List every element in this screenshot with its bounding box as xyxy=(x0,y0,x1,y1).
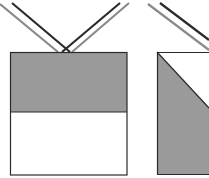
diagonal-line-left-dark xyxy=(12,3,70,52)
right-box xyxy=(157,52,209,175)
converging-lines xyxy=(0,3,129,52)
diagonal-line-right-dark xyxy=(62,3,120,52)
left-box-gray-half xyxy=(10,52,127,112)
left-box-white-half xyxy=(10,112,127,175)
diagonal-line-right2-dark xyxy=(160,3,209,40)
diagonal-line-left-light xyxy=(0,4,58,52)
right-box-gray-triangle xyxy=(157,52,209,175)
diagonal-line-right2-light xyxy=(148,4,209,50)
diagram-canvas xyxy=(0,0,209,178)
left-box xyxy=(10,52,127,175)
diagonal-line-right-light xyxy=(72,3,129,52)
right-lines xyxy=(148,3,209,50)
